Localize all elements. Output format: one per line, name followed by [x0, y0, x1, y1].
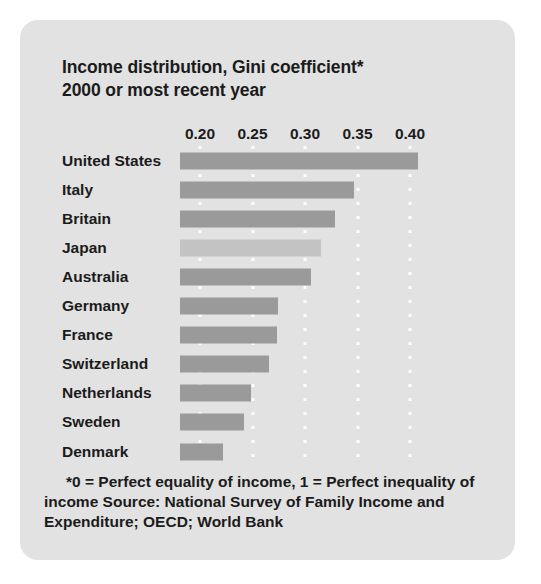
country-label: Denmark — [62, 443, 128, 461]
bar — [180, 385, 251, 402]
country-label: Switzerland — [62, 355, 148, 373]
bar-row: Germany — [20, 292, 515, 321]
country-label: United States — [62, 152, 161, 170]
x-axis-tick-label: 0.20 — [185, 125, 215, 143]
bar-row: Sweden — [20, 408, 515, 437]
country-label: Japan — [62, 239, 107, 257]
bar-row: United States — [20, 146, 515, 175]
bar-row: Netherlands — [20, 379, 515, 408]
country-label: Germany — [62, 297, 129, 315]
chart-footnote: *0 = Perfect equality of income, 1 = Per… — [44, 472, 499, 532]
bar-row: France — [20, 321, 515, 350]
bar-row: Britain — [20, 204, 515, 233]
x-axis-tick-label: 0.25 — [237, 125, 267, 143]
bar-row: Italy — [20, 175, 515, 204]
x-axis-tick-label: 0.40 — [395, 125, 425, 143]
chart-title: Income distribution, Gini coefficient* 2… — [62, 56, 482, 103]
bar — [180, 210, 335, 227]
bar-row: Denmark — [20, 437, 515, 466]
bar-row: Japan — [20, 233, 515, 262]
x-axis-tick-label: 0.30 — [290, 125, 320, 143]
country-label: Netherlands — [62, 384, 152, 402]
bar — [180, 414, 244, 431]
bar — [180, 327, 277, 344]
bar-row: Switzerland — [20, 350, 515, 379]
country-label: Sweden — [62, 413, 121, 431]
country-label: France — [62, 326, 113, 344]
country-label: Britain — [62, 210, 111, 228]
chart-title-line-1: Income distribution, Gini coefficient* — [62, 56, 482, 79]
bar-row: Australia — [20, 262, 515, 291]
x-axis-tick-label: 0.35 — [342, 125, 372, 143]
bar — [180, 443, 223, 460]
bar — [180, 298, 278, 315]
country-label: Italy — [62, 181, 93, 199]
chart-subtitle: 2000 or most recent year — [62, 79, 482, 102]
bar — [180, 239, 321, 256]
bar — [180, 268, 311, 285]
bar — [180, 152, 418, 169]
bar — [180, 356, 269, 373]
country-label: Australia — [62, 268, 128, 286]
chart-card: Income distribution, Gini coefficient* 2… — [20, 20, 515, 560]
plot-area: United StatesItalyBritainJapanAustraliaG… — [20, 146, 515, 466]
bar — [180, 181, 354, 198]
x-axis-tick-labels: 0.200.250.300.350.40 — [20, 125, 515, 145]
